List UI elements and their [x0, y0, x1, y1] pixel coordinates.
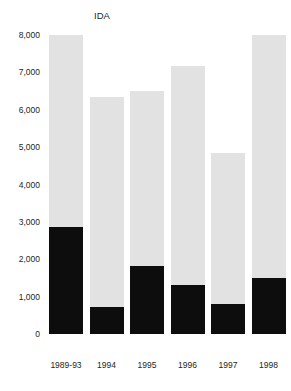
y-axis: 01,0002,0003,0004,0005,0006,0007,0008,00… — [0, 0, 44, 391]
bar-segment-ibrd[interactable] — [171, 285, 205, 334]
y-tick-label: 1,000 — [19, 292, 40, 301]
bar-segment-ida[interactable] — [211, 153, 245, 304]
stacked-bar-chart: 01,0002,0003,0004,0005,0006,0007,0008,00… — [0, 0, 290, 391]
bar-stack — [90, 97, 124, 334]
y-tick-label: 2,000 — [19, 255, 40, 264]
y-tick-label: 7,000 — [19, 68, 40, 77]
bar-stack — [171, 66, 205, 334]
y-tick-label: 4,000 — [19, 180, 40, 189]
bar-group[interactable] — [49, 35, 83, 334]
series-label-ida: IDA — [94, 11, 110, 21]
bar-group[interactable] — [211, 153, 245, 334]
bar-segment-ida[interactable] — [252, 35, 286, 278]
bar-segment-ida[interactable] — [130, 91, 164, 266]
y-tick-label: 3,000 — [19, 217, 40, 226]
bar-stack — [211, 153, 245, 334]
bar-group[interactable] — [252, 35, 286, 334]
bar-segment-ibrd[interactable] — [252, 278, 286, 334]
bar-segment-ibrd[interactable] — [90, 307, 124, 334]
bar-segment-ida[interactable] — [171, 66, 205, 285]
bar-segment-ida[interactable] — [49, 35, 83, 227]
bar-segment-ibrd[interactable] — [49, 227, 83, 334]
y-tick-label: 0 — [35, 330, 40, 339]
bar-stack — [252, 35, 286, 334]
bar-stack — [130, 91, 164, 334]
bar-segment-ibrd[interactable] — [211, 304, 245, 334]
plot-area: IDA IBRD 1989-9319941995199619971998 — [44, 0, 290, 391]
y-tick-label: 6,000 — [19, 105, 40, 114]
y-tick-label: 5,000 — [19, 143, 40, 152]
bar-group[interactable] — [171, 66, 205, 334]
bar-stack — [49, 35, 83, 334]
x-tick-label: 1998 — [242, 360, 291, 370]
bar-group[interactable] — [130, 91, 164, 334]
y-tick-label: 8,000 — [19, 31, 40, 40]
bar-group[interactable] — [90, 97, 124, 334]
bar-segment-ibrd[interactable] — [130, 266, 164, 334]
bar-segment-ida[interactable] — [90, 97, 124, 307]
